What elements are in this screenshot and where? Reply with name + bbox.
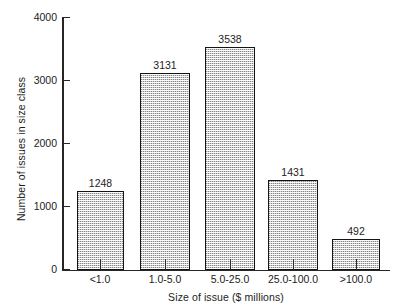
y-tick-1000 <box>63 206 70 207</box>
y-tick-2000 <box>63 143 70 144</box>
x-category-label-gt-100: >100.0 <box>326 273 386 285</box>
bar-1-5 <box>140 73 190 270</box>
x-category-label-25-100: 25.0-100.0 <box>255 273 331 285</box>
y-tick-0 <box>63 269 70 270</box>
x-category-label-5-25: 5.0-25.0 <box>198 273 262 285</box>
y-tick-label-4000: 4000 <box>0 12 57 23</box>
bar-value-1-5: 3131 <box>140 60 190 71</box>
y-tick-label-0: 0 <box>0 264 57 275</box>
x-tick-25-100 <box>293 259 294 270</box>
x-tick-5-25 <box>230 259 231 270</box>
bar-25-100 <box>268 180 318 270</box>
x-tick-1-5 <box>165 259 166 270</box>
bar-value-lt-1: 1248 <box>77 178 124 189</box>
bar-value-25-100: 1431 <box>268 167 318 178</box>
x-tick-lt-1 <box>100 259 101 270</box>
x-tick-gt-100 <box>356 259 357 270</box>
x-category-label-lt-1: <1.0 <box>70 273 130 285</box>
y-tick-3000 <box>63 80 70 81</box>
bar-value-gt-100: 492 <box>332 226 380 237</box>
y-tick-label-3000: 3000 <box>0 75 57 86</box>
bar-value-5-25: 3538 <box>205 34 255 45</box>
y-axis-title: Number of issues in size class <box>15 34 27 264</box>
y-tick-label-2000: 2000 <box>0 138 57 149</box>
bar-5-25 <box>205 47 255 270</box>
bar-chart: Number of issues in size class 0 1000 20… <box>0 0 401 308</box>
x-axis-title: Size of issue ($ millions) <box>62 291 390 303</box>
x-category-label-1-5: 1.0-5.0 <box>133 273 197 285</box>
y-tick-4000 <box>63 17 70 18</box>
y-tick-label-1000: 1000 <box>0 201 57 212</box>
